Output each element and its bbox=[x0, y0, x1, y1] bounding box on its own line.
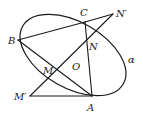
label-N-prime: N′ bbox=[115, 8, 128, 19]
label-C: C bbox=[80, 7, 88, 18]
label-M: M bbox=[42, 65, 54, 76]
geometry-diagram: C N′ B N O M α M′ A bbox=[0, 0, 143, 116]
label-M-prime: M′ bbox=[13, 91, 27, 102]
label-O: O bbox=[72, 61, 80, 72]
segment-CA bbox=[85, 22, 92, 96]
label-B: B bbox=[7, 35, 15, 46]
label-N: N bbox=[88, 41, 99, 52]
segment-NprimeMprime bbox=[30, 14, 113, 96]
segment-BC bbox=[18, 22, 85, 40]
label-A: A bbox=[86, 102, 94, 113]
label-alpha: α bbox=[128, 54, 135, 65]
segment-BA bbox=[18, 40, 92, 96]
